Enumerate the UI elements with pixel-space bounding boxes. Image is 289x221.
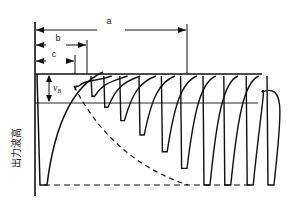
dimension-b: b xyxy=(36,33,86,48)
amplitude-vb: vB xyxy=(46,75,61,102)
arrow-head-right xyxy=(78,42,86,48)
pulse-waveform xyxy=(246,76,263,185)
pulse-waveform xyxy=(161,76,197,152)
dimension-c: c xyxy=(36,49,74,64)
label-c: c xyxy=(52,49,57,59)
label-a: a xyxy=(106,16,111,26)
arrow-head-right xyxy=(178,27,186,33)
arrow-head-left xyxy=(36,27,44,33)
dimension-a: a xyxy=(36,16,186,33)
pulse-waveform xyxy=(224,76,259,185)
vb-label: vB xyxy=(53,82,61,94)
arrow-head-left xyxy=(36,42,44,48)
pulse-waveform-diagram: a b c vB 出力波高 xyxy=(0,0,289,221)
pulse-train xyxy=(37,72,280,185)
pulse-waveform xyxy=(262,76,280,185)
pulse-waveform xyxy=(181,76,216,168)
arrow-head-up xyxy=(46,75,52,82)
pulse-waveform xyxy=(139,76,175,135)
label-b: b xyxy=(55,33,60,43)
y-axis-label-text: 出力波高 xyxy=(10,128,22,168)
arrow-head-down xyxy=(46,95,52,102)
arrow-head-right xyxy=(66,58,74,64)
arrow-head-left xyxy=(36,58,44,64)
y-axis-label: 出力波高 xyxy=(10,128,22,168)
pulse-waveform xyxy=(37,72,103,185)
